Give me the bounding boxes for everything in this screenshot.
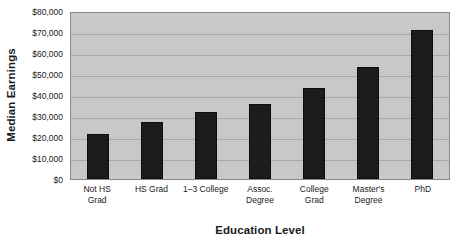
bar[interactable] [411,30,434,179]
x-axis-tick-label-line: Master's [341,184,395,195]
bar[interactable] [87,134,110,179]
y-axis-tick-label: $60,000 [32,49,63,59]
y-axis-tick-label: $70,000 [32,28,63,38]
bar[interactable] [303,88,326,179]
x-axis-tick-label: CollegeGrad [287,184,341,206]
x-axis-tick-label: 1–3 College [179,184,233,206]
x-axis-tick-label-line: Degree [233,195,287,206]
x-axis-tick-label: Master'sDegree [341,184,395,206]
y-axis-tick-label: $10,000 [32,154,63,164]
x-axis-tick-label-line: Not HS [70,184,124,195]
x-axis-tick-label-line: Grad [70,195,124,206]
x-axis-tick-labels: Not HSGradHS Grad1–3 CollegeAssoc.Degree… [70,184,450,206]
y-axis-tick-labels: $80,000$70,000$60,000$50,000$40,000$30,0… [20,12,67,180]
bar-slot [287,13,341,179]
x-axis-tick-label: Assoc.Degree [233,184,287,206]
bar-slot [395,13,449,179]
bar-slot [125,13,179,179]
bar-slot [341,13,395,179]
bar[interactable] [249,104,272,179]
y-axis-tick-label: $40,000 [32,91,63,101]
y-axis-tick-label: $50,000 [32,70,63,80]
bar[interactable] [195,112,218,179]
y-axis-tick-label: $0 [54,175,63,185]
y-axis-title-label: Median Earnings [5,48,17,142]
y-axis-tick-label: $80,000 [32,7,63,17]
bar-slot [71,13,125,179]
x-axis-tick-label-line: College [287,184,341,195]
x-axis-tick-label-line: HS Grad [124,184,178,195]
x-axis-tick-label-line: Degree [341,195,395,206]
x-axis-title: Education Level [70,224,450,236]
x-axis-tick-label-line: Grad [287,195,341,206]
y-axis-tick-label: $20,000 [32,133,63,143]
bar-slot [233,13,287,179]
x-axis-tick-label-line: 1–3 College [179,184,233,195]
x-axis-tick-label-line: PhD [396,184,450,195]
y-axis-tick-label: $30,000 [32,112,63,122]
x-axis-tick-label: PhD [396,184,450,206]
y-axis-title: Median Earnings [0,0,22,190]
x-axis-tick-label-line: Assoc. [233,184,287,195]
x-axis-tick-label: Not HSGrad [70,184,124,206]
bars-container [71,13,449,179]
plot-area [70,12,450,180]
bar[interactable] [357,67,380,179]
bar[interactable] [141,122,164,179]
x-axis-tick-label: HS Grad [124,184,178,206]
bar-slot [179,13,233,179]
bar-chart-figure: Median Earnings $80,000$70,000$60,000$50… [0,0,470,247]
